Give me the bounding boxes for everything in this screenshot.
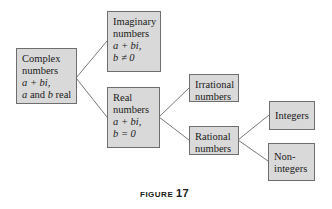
node-label: Imaginary: [113, 16, 160, 28]
node-complex-numbers: Complex numbers a + bi, a and b real: [16, 48, 77, 104]
node-label: Irrational: [195, 79, 238, 91]
node-label: numbers: [113, 28, 160, 40]
node-label: Integers: [275, 110, 314, 122]
node-label: integers: [274, 163, 314, 175]
node-condition: b = 0: [113, 128, 159, 140]
figure-caption: FIGURE 17: [140, 187, 189, 199]
node-non-integers: Non- integers: [268, 143, 315, 181]
node-label: Non-: [274, 151, 314, 163]
edge-complex-imaginary: [76, 41, 107, 78]
edge-real-rational: [159, 117, 189, 140]
node-irrational-numbers: Irrational numbers: [189, 74, 239, 102]
node-condition: a and b real: [22, 89, 76, 101]
node-formula: a + bi,: [113, 40, 160, 52]
edge-complex-real: [76, 78, 107, 117]
node-formula: a + bi,: [113, 116, 159, 128]
node-imaginary-numbers: Imaginary numbers a + bi, b ≠ 0: [107, 11, 161, 72]
edge-rational-nonintegers: [238, 140, 268, 161]
node-rational-numbers: Rational numbers: [189, 126, 239, 155]
edge-real-irrational: [159, 88, 189, 117]
caption-label: FIGURE: [140, 190, 173, 199]
node-real-numbers: Real numbers a + bi, b = 0: [107, 87, 160, 148]
node-label: Complex: [22, 53, 76, 65]
node-label: numbers: [113, 104, 159, 116]
edge-rational-integers: [238, 115, 269, 140]
caption-number: 17: [176, 187, 189, 199]
node-formula: a + bi,: [22, 77, 76, 89]
node-label: numbers: [22, 65, 76, 77]
node-label: Rational: [195, 131, 238, 143]
node-label: numbers: [195, 143, 238, 155]
node-label: Real: [113, 92, 159, 104]
node-condition: b ≠ 0: [113, 52, 160, 64]
node-label: numbers: [195, 91, 238, 103]
node-integers: Integers: [269, 101, 315, 130]
